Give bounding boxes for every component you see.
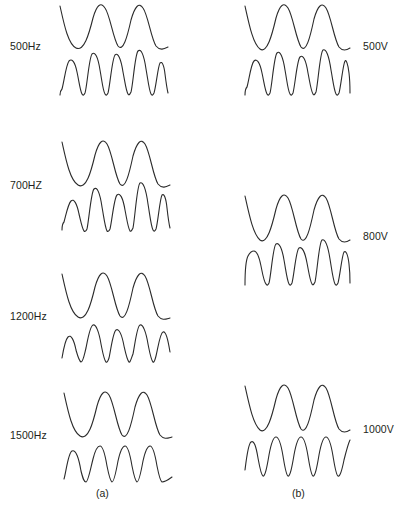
pulsed-trace-b2 (245, 240, 350, 285)
pulsed-trace-a3 (62, 325, 170, 362)
carrier-trace-a4 (64, 392, 172, 438)
waveform-figure: 500Hz 700HZ 1200Hz 1500Hz (a) 500V (0, 0, 408, 508)
row-label-800v: 800V (363, 231, 388, 242)
carrier-trace-b1 (245, 5, 350, 50)
caption-a: (a) (96, 488, 109, 499)
pulsed-trace-b1 (245, 50, 350, 95)
row-label-1000v: 1000V (363, 424, 394, 435)
waveform-a1 (58, 2, 170, 102)
carrier-trace-b3 (245, 385, 350, 432)
waveform-a3 (60, 270, 172, 370)
row-label-500hz: 500Hz (10, 41, 41, 52)
pulsed-trace-b3 (245, 437, 350, 476)
row-label-700hz: 700HZ (10, 180, 42, 191)
pulsed-trace-a2 (62, 183, 170, 232)
caption-b: (b) (292, 488, 305, 499)
row-label-500v: 500V (363, 41, 388, 52)
carrier-trace-a1 (60, 5, 168, 49)
waveform-a2 (60, 138, 172, 238)
waveform-b3 (243, 382, 351, 482)
row-label-1500hz: 1500Hz (10, 430, 47, 441)
row-label-1200hz: 1200Hz (10, 311, 47, 322)
carrier-trace-a2 (62, 141, 170, 187)
waveform-b1 (243, 2, 351, 102)
carrier-trace-a3 (62, 273, 170, 319)
waveform-b2 (243, 192, 351, 292)
pulsed-trace-a4 (64, 446, 172, 482)
waveform-a4 (62, 389, 174, 489)
pulsed-trace-a1 (60, 50, 168, 95)
carrier-trace-b2 (245, 195, 350, 242)
